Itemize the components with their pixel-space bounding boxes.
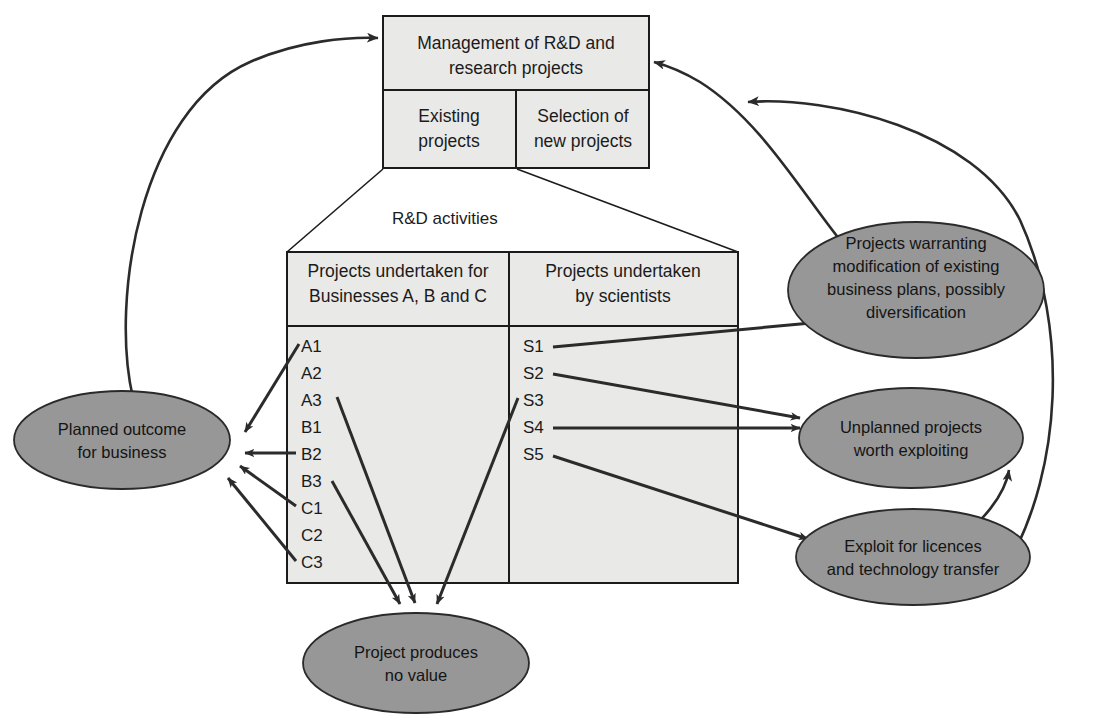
selection-new-projects-line-2: new projects — [534, 131, 632, 151]
selection-new-projects-line-1: Selection of — [537, 106, 629, 126]
list-item-a2: A2 — [301, 364, 322, 383]
list-item-s1: S1 — [523, 337, 544, 356]
funnel-connectors — [287, 169, 738, 252]
arrow-c3-to-planned-outcome — [228, 478, 296, 561]
diagram-canvas: Management of R&D and research projects … — [0, 0, 1098, 728]
list-item-a1: A1 — [301, 337, 322, 356]
list-item-b3: B3 — [301, 472, 322, 491]
column-2-header-line-2: by scientists — [575, 286, 671, 306]
list-item-b2: B2 — [301, 445, 322, 464]
list-item-a3: A3 — [301, 391, 322, 410]
warranting-line-3: business plans, possibly — [827, 280, 1006, 298]
exploit-line-2: and technology transfer — [827, 560, 1000, 578]
ellipse-no-value: Project produces no value — [303, 613, 529, 713]
ellipse-exploit-licences: Exploit for licences and technology tran… — [796, 509, 1030, 605]
unplanned-line-1: Unplanned projects — [840, 418, 982, 436]
warranting-line-2: modification of existing — [833, 257, 1000, 275]
management-box: Management of R&D and research projects … — [383, 16, 649, 168]
activities-box: Projects undertaken for Businesses A, B … — [287, 252, 738, 583]
list-item-c2: C2 — [301, 526, 323, 545]
ellipse-planned-outcome: Planned outcome for business — [14, 391, 230, 489]
funnel-left — [287, 169, 383, 252]
rd-activities-caption: R&D activities — [392, 209, 498, 228]
column-2-header-line-1: Projects undertaken — [545, 261, 701, 281]
list-item-s4: S4 — [523, 418, 544, 437]
no-value-line-2: no value — [385, 666, 447, 684]
list-item-c3: C3 — [301, 553, 323, 572]
column-1-items: A1 A2 A3 B1 B2 B3 C1 C2 C3 — [301, 337, 323, 572]
curve-warranting-to-management — [654, 62, 840, 240]
warranting-line-1: Projects warranting — [845, 234, 986, 252]
management-box-header-line-2: research projects — [449, 58, 583, 78]
column-1-header-line-1: Projects undertaken for — [308, 261, 489, 281]
column-1-header-line-2: Businesses A, B and C — [309, 286, 487, 306]
list-item-s3: S3 — [523, 391, 544, 410]
no-value-line-1: Project produces — [354, 643, 478, 661]
existing-projects-line-2: projects — [418, 131, 480, 151]
list-item-s5: S5 — [523, 445, 544, 464]
ellipse-warranting-modification: Projects warranting modification of exis… — [788, 222, 1044, 358]
list-item-s2: S2 — [523, 364, 544, 383]
unplanned-line-2: worth exploiting — [853, 441, 969, 459]
list-item-b1: B1 — [301, 418, 322, 437]
exploit-line-1: Exploit for licences — [844, 537, 982, 555]
warranting-line-4: diversification — [866, 303, 966, 321]
funnel-right — [517, 169, 738, 252]
planned-outcome-line-2: for business — [78, 443, 167, 461]
list-item-c1: C1 — [301, 499, 323, 518]
planned-outcome-line-1: Planned outcome — [58, 420, 186, 438]
existing-projects-line-1: Existing — [418, 106, 479, 126]
management-box-header-line-1: Management of R&D and — [417, 33, 614, 53]
ellipse-unplanned-projects: Unplanned projects worth exploiting — [799, 388, 1023, 488]
